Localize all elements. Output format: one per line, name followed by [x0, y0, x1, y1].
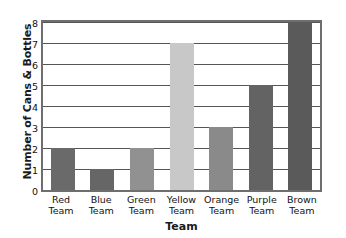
x-axis-tick-label-line1: Yellow	[161, 194, 201, 205]
bar-slot	[201, 22, 241, 190]
bar-slot	[162, 22, 202, 190]
bar[interactable]	[90, 169, 114, 190]
plot-area	[41, 20, 322, 192]
y-axis-tick-labels: 012345678	[22, 24, 38, 192]
bar-slot	[122, 22, 162, 190]
y-axis-tick-label: 2	[22, 145, 38, 155]
x-axis-tick-label-line2: Team	[41, 205, 81, 216]
y-axis-tick-label: 5	[22, 82, 38, 92]
bar[interactable]	[51, 148, 75, 190]
x-axis-tick-label-line2: Team	[282, 205, 322, 216]
y-axis-tick-label: 0	[22, 187, 38, 197]
bar-chart: Number of Cans & Bottles 012345678 RedTe…	[0, 0, 346, 238]
x-axis-tick-labels: RedTeamBlueTeamGreenTeamYellowTeamOrange…	[41, 194, 322, 216]
x-axis-tick-label-line2: Team	[202, 205, 242, 216]
x-axis-tick-label-line2: Team	[121, 205, 161, 216]
bar[interactable]	[249, 85, 273, 190]
x-axis-tick-label-line1: Orange	[202, 194, 242, 205]
bar[interactable]	[170, 43, 194, 190]
y-axis-tick-label: 6	[22, 61, 38, 71]
bar-slot	[83, 22, 123, 190]
bar[interactable]	[288, 22, 312, 190]
y-axis-tick-label: 8	[22, 19, 38, 29]
x-axis-tick-label: OrangeTeam	[202, 194, 242, 216]
x-axis-tick-label: RedTeam	[41, 194, 81, 216]
y-axis-tick-label: 3	[22, 124, 38, 134]
x-axis-tick-label-line1: Red	[41, 194, 81, 205]
x-axis-title: Team	[41, 220, 322, 233]
bars-container	[43, 22, 320, 190]
x-axis-tick-label: GreenTeam	[121, 194, 161, 216]
bar-slot	[241, 22, 281, 190]
x-axis-tick-label-line1: Green	[121, 194, 161, 205]
x-axis-tick-label-line2: Team	[81, 205, 121, 216]
bar-slot	[280, 22, 320, 190]
x-axis-tick-label-line2: Team	[161, 205, 201, 216]
x-axis-tick-label: YellowTeam	[161, 194, 201, 216]
y-axis-tick-label: 1	[22, 166, 38, 176]
y-axis-tick-label: 7	[22, 40, 38, 50]
x-axis-tick-label-line2: Team	[242, 205, 282, 216]
bar[interactable]	[209, 127, 233, 190]
x-axis-tick-label: BrownTeam	[282, 194, 322, 216]
y-axis-tick-label: 4	[22, 103, 38, 113]
x-axis-tick-label-line1: Brown	[282, 194, 322, 205]
x-axis-tick-label-line1: Blue	[81, 194, 121, 205]
x-axis-tick-label: PurpleTeam	[242, 194, 282, 216]
x-axis-tick-label-line1: Purple	[242, 194, 282, 205]
bar-slot	[43, 22, 83, 190]
x-axis-tick-label: BlueTeam	[81, 194, 121, 216]
bar[interactable]	[130, 148, 154, 190]
